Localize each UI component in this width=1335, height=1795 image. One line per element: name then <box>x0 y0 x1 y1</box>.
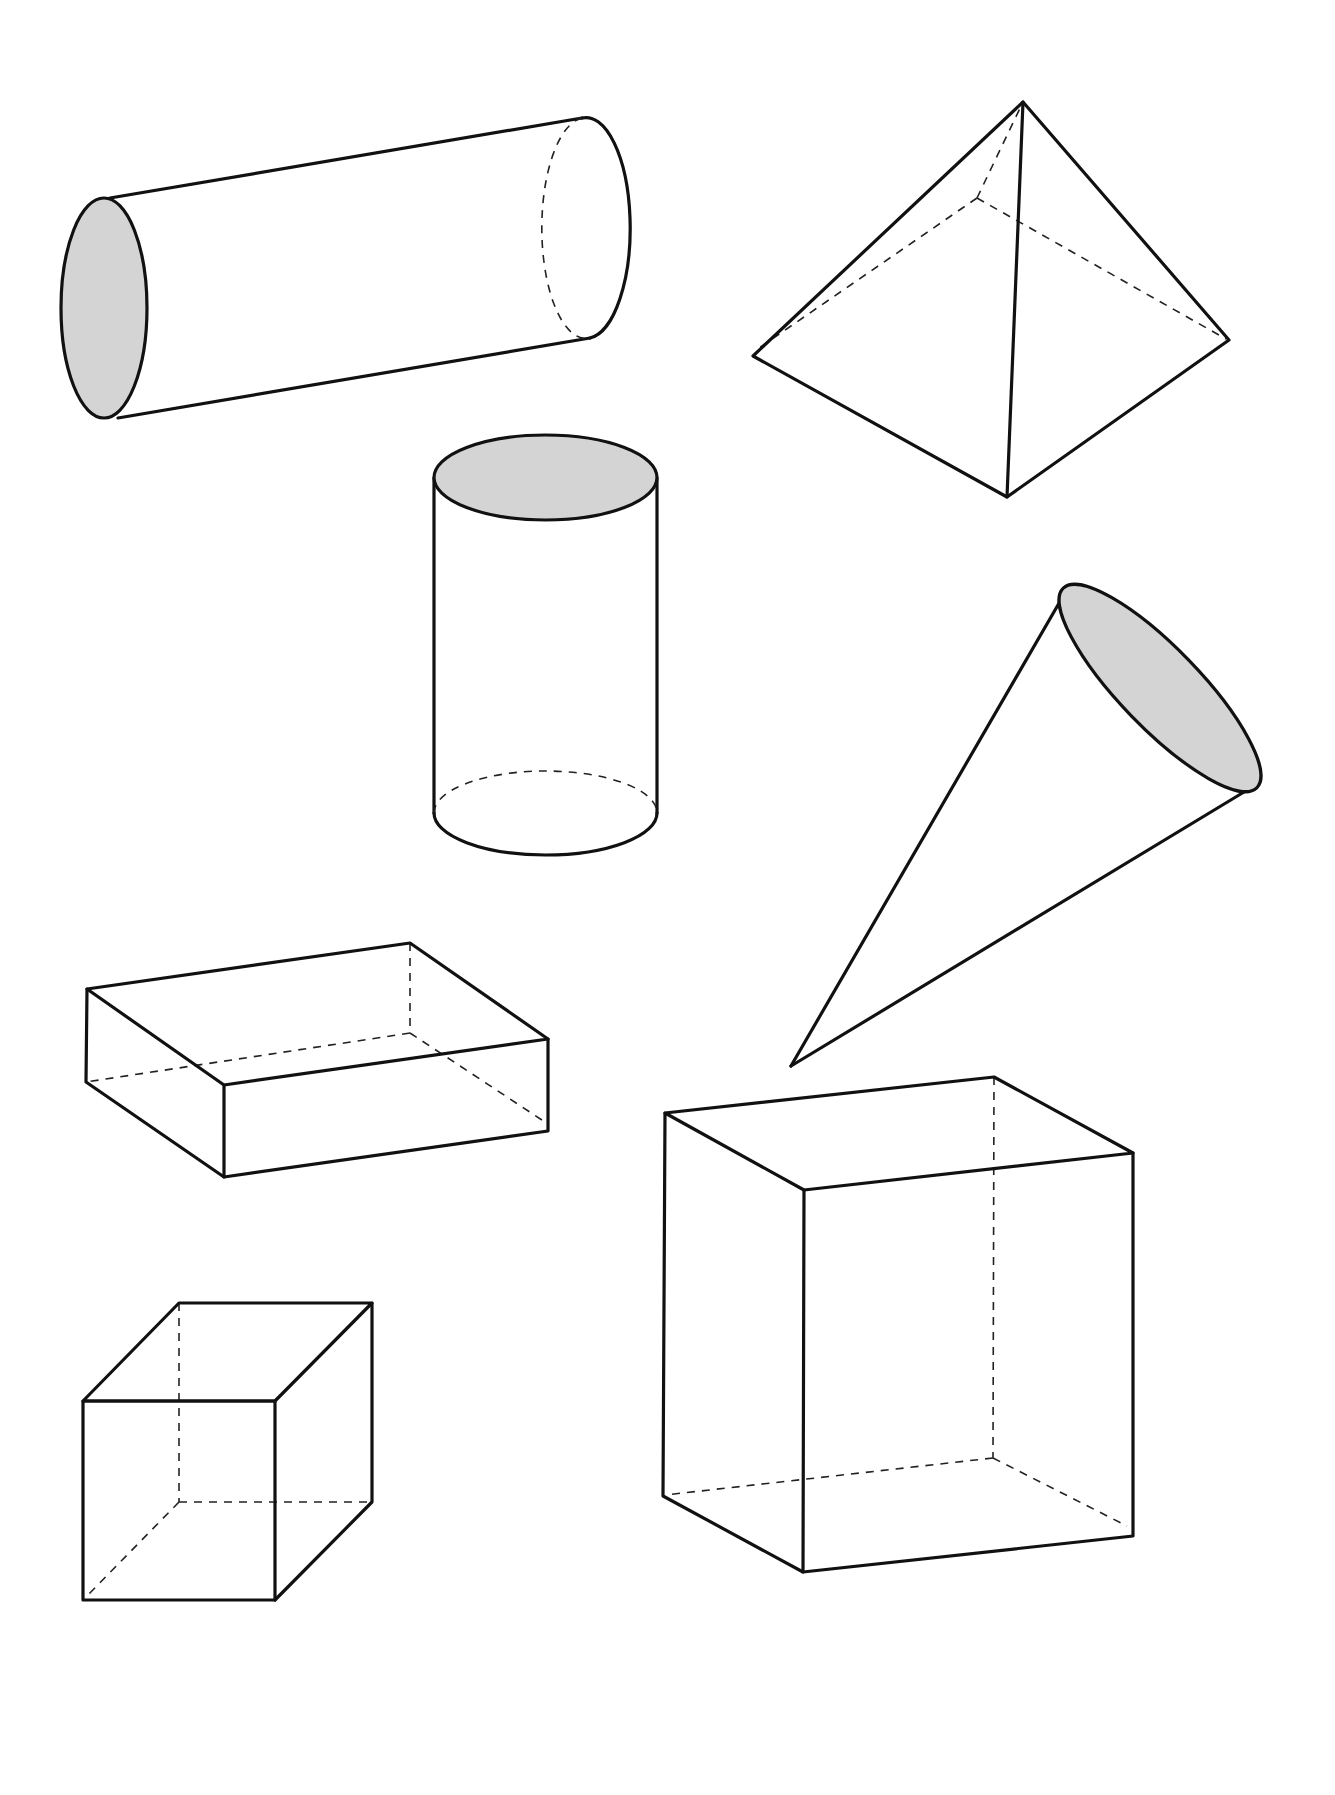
cube <box>83 1303 372 1600</box>
horizontal-cylinder <box>61 118 630 418</box>
cone <box>791 560 1285 1066</box>
geometric-solids-diagram <box>0 0 1335 1795</box>
square-pyramid <box>753 102 1229 497</box>
vertical-cylinder <box>434 435 657 855</box>
flat-rectangular-prism <box>86 943 548 1177</box>
tall-rectangular-prism <box>663 1077 1133 1572</box>
